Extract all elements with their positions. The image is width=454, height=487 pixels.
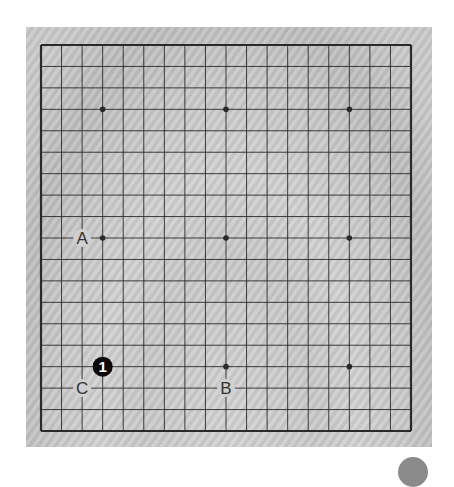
star-point [223, 107, 229, 113]
star-point [223, 235, 229, 241]
stone-move-number: 1 [98, 358, 106, 375]
board-label-a[interactable]: A [76, 229, 88, 248]
star-point [100, 107, 106, 113]
star-point [223, 364, 229, 370]
board-label-c[interactable]: C [76, 379, 88, 398]
board-label-b[interactable]: B [220, 379, 231, 398]
star-point [347, 235, 353, 241]
star-point [100, 235, 106, 241]
partial-circle-icon [398, 457, 428, 487]
star-point [347, 364, 353, 370]
star-point [347, 107, 353, 113]
